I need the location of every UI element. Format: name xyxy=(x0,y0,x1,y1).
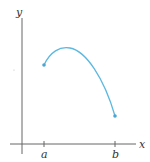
faint-dot xyxy=(13,69,14,70)
tick-label-b: b xyxy=(112,148,119,161)
y-axis-label: y xyxy=(15,6,23,19)
curve-start-point xyxy=(42,63,46,67)
function-graph: y x a b xyxy=(0,0,150,162)
curve-end-point xyxy=(113,114,117,118)
tick-label-a: a xyxy=(41,148,48,161)
x-axis-label: x xyxy=(139,138,146,151)
function-curve xyxy=(44,48,115,116)
